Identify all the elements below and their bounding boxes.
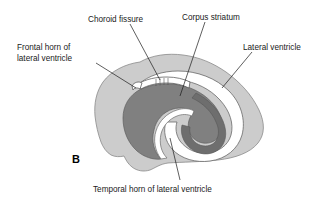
brain-diagram-svg: Choroid fissure Corpus striatum Lateral … <box>0 0 328 204</box>
figure-panel-b: Choroid fissure Corpus striatum Lateral … <box>0 0 328 204</box>
label-lateral-ventricle: Lateral ventricle <box>243 43 301 52</box>
label-frontal-horn-line-2: lateral ventricle <box>17 54 73 63</box>
label-corpus-striatum: Corpus striatum <box>182 13 240 22</box>
label-temporal-horn: Temporal horn of lateral ventricle <box>93 185 212 194</box>
panel-letter: B <box>72 153 80 165</box>
label-choroid-fissure: Choroid fissure <box>88 15 144 24</box>
label-frontal-horn-line-1: Frontal horn of <box>17 43 71 52</box>
